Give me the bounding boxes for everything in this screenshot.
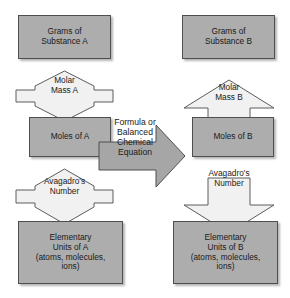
node-grams-of-substance-a: Grams of Substance A: [18, 15, 111, 59]
node-grams-of-substance-b: Grams of Substance B: [182, 15, 275, 59]
node-grams-of-substance-a-label: Grams of Substance A: [19, 27, 110, 47]
node-molar-mass-a-label: Molar Mass A: [16, 76, 113, 96]
node-avagadros-number-a-label: Avagadro's Number: [16, 177, 113, 197]
node-grams-of-substance-b-label: Grams of Substance B: [183, 27, 274, 47]
node-molar-mass-b-up-arrow: Molar Mass B: [184, 61, 274, 111]
node-avagadros-number-b-label: Avagadro's Number: [184, 169, 274, 205]
mole-conversion-diagram: Grams of Substance A Grams of Substance …: [0, 0, 290, 298]
node-moles-of-b: Moles of B: [192, 117, 274, 157]
node-formula-balanced-equation-label: Formula or Balanced Chemical Equation: [99, 117, 185, 158]
node-molar-mass-a-double-arrow: Molar Mass A: [16, 61, 113, 111]
node-moles-of-a-label: Moles of A: [30, 132, 110, 142]
node-elementary-units-of-a: Elementary Units of A (atoms, molecules,…: [18, 221, 123, 284]
node-molar-mass-b-label: Molar Mass B: [184, 69, 274, 103]
node-avagadros-number-b-down-arrow: Avagadro's Number: [184, 159, 274, 214]
node-elementary-units-of-b-label: Elementary Units of B (atoms, molecules,…: [174, 233, 277, 272]
node-elementary-units-of-a-label: Elementary Units of A (atoms, molecules,…: [19, 233, 122, 272]
node-elementary-units-of-b: Elementary Units of B (atoms, molecules,…: [173, 221, 278, 284]
node-moles-of-b-label: Moles of B: [193, 132, 273, 142]
node-avagadros-number-a-double-arrow: Avagadro's Number: [16, 159, 113, 214]
